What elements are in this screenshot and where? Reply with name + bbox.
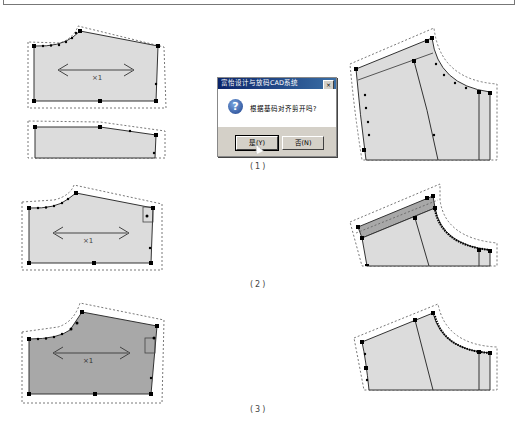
pattern-piece-1b[interactable] — [28, 121, 165, 158]
caption-2: (2) — [250, 280, 267, 289]
close-button[interactable]: × — [323, 80, 334, 90]
pattern-piece-3a[interactable]: ×1 — [22, 303, 164, 403]
pattern-canvas[interactable]: ×1 ×1 — [0, 0, 518, 428]
pattern-piece-1c[interactable] — [350, 28, 497, 160]
grain-label: ×1 — [83, 357, 93, 365]
dialog-button-row: 是(Y) 否(N) — [218, 129, 336, 156]
question-icon: ? — [228, 99, 243, 114]
dialog-title-bar[interactable]: 富怡设计与放码CAD系统 × — [218, 78, 336, 89]
pattern-piece-1a[interactable]: ×1 — [28, 26, 166, 108]
pattern-piece-2b[interactable] — [350, 184, 497, 266]
dialog-title: 富怡设计与放码CAD系统 — [221, 79, 298, 87]
confirm-dialog: 富怡设计与放码CAD系统 × ? 根据基码对齐剪开吗? 是(Y) 否(N) — [217, 77, 337, 157]
pattern-piece-3b[interactable] — [354, 304, 497, 390]
caption-3: (3) — [250, 405, 267, 414]
no-button[interactable]: 否(N) — [282, 136, 324, 150]
grain-label: ×1 — [83, 237, 93, 245]
dialog-body: ? 根据基码对齐剪开吗? — [218, 89, 336, 127]
caption-1: (1) — [250, 162, 267, 171]
dialog-message: 根据基码对齐剪开吗? — [250, 103, 316, 113]
pattern-piece-2a[interactable]: ×1 — [22, 185, 162, 270]
grain-label: ×1 — [92, 74, 102, 82]
